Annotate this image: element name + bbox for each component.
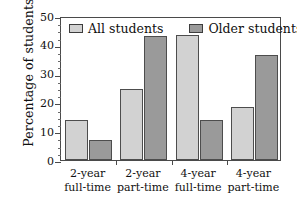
x-axis-category-label-line: 2-year: [60, 167, 115, 181]
x-axis-category-label: 4-yearfull-time: [171, 167, 226, 194]
x-axis-tick: [172, 160, 173, 165]
x-axis-tick: [227, 160, 228, 165]
x-axis-category-label-line: 4-year: [171, 167, 226, 181]
legend-swatch-light: [69, 24, 83, 33]
bar: [231, 107, 254, 160]
x-axis-category-label-line: part-time: [226, 181, 281, 195]
bar-chart-figure: Percentage of students 50403020100 All s…: [0, 0, 297, 203]
y-axis-tick-label: 30: [32, 69, 54, 80]
legend: All studentsOlder students: [69, 22, 297, 35]
bar: [65, 120, 88, 160]
y-axis-tick-label: 50: [32, 12, 54, 23]
x-axis-category-label: 2-yearfull-time: [60, 167, 115, 194]
legend-entry: Older students: [189, 22, 297, 35]
legend-label: Older students: [208, 22, 297, 35]
bar: [144, 36, 167, 160]
y-axis-tick-label: 20: [32, 98, 54, 109]
bar: [255, 55, 278, 160]
y-axis-tick-label: 10: [32, 127, 54, 138]
x-axis-tick: [116, 160, 117, 165]
legend-swatch-dark: [189, 24, 203, 33]
x-axis-category-label-line: part-time: [115, 181, 170, 195]
x-axis-category-label-line: 4-year: [226, 167, 281, 181]
legend-label: All students: [88, 22, 163, 35]
x-axis-category-label: 4-yearpart-time: [226, 167, 281, 194]
plot-area: All studentsOlder students: [60, 17, 281, 161]
y-axis-major-tick: [55, 162, 61, 163]
bar: [200, 120, 223, 160]
x-axis-category-label: 2-yearpart-time: [115, 167, 170, 194]
bars-layer: [61, 18, 280, 160]
y-axis-tick-label: 40: [32, 40, 54, 51]
bar: [120, 89, 143, 160]
y-axis-tick-labels: 50403020100: [30, 0, 54, 203]
x-axis-category-labels: 2-yearfull-time2-yearpart-time4-yearfull…: [60, 167, 281, 201]
legend-entry: All students: [69, 22, 163, 35]
x-axis-category-label-line: full-time: [171, 181, 226, 195]
bar: [176, 35, 199, 160]
bar: [89, 140, 112, 160]
x-axis-category-label-line: full-time: [60, 181, 115, 195]
y-axis-tick-label: 0: [32, 156, 54, 167]
x-axis-category-label-line: 2-year: [115, 167, 170, 181]
